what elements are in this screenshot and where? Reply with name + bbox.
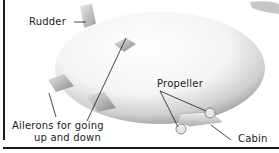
label-cabin: Cabin: [238, 133, 268, 144]
label-rudder: Rudder: [29, 16, 66, 27]
frame-bottom-border: [3, 147, 279, 149]
background-blimp-edge: [250, 1, 279, 14]
frame-left-border: [3, 0, 5, 140]
blimp-body: [55, 12, 265, 124]
propeller-icon: [205, 108, 215, 118]
label-propeller: Propeller: [157, 78, 203, 89]
rudder-fin: [80, 4, 96, 28]
label-ailerons-line2: up and down: [34, 132, 101, 143]
label-ailerons-line1: Ailerons for going: [12, 120, 104, 131]
blimp-diagram: Rudder Propeller Ailerons for going up a…: [0, 0, 279, 153]
